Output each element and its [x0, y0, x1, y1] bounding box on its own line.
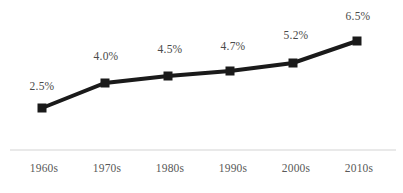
data-point-marker	[226, 67, 235, 76]
data-point-marker	[353, 37, 362, 46]
data-point-marker	[38, 104, 47, 113]
data-point-marker	[289, 59, 298, 68]
x-axis-tick-label: 1980s	[144, 162, 196, 174]
data-point-label: 2.5%	[20, 80, 64, 92]
data-point-label: 4.7%	[211, 40, 255, 52]
data-point-label: 4.0%	[84, 50, 128, 62]
data-point-label: 5.2%	[274, 29, 318, 41]
x-axis-tick-label: 1990s	[207, 162, 259, 174]
x-axis-tick-label: 2000s	[270, 162, 322, 174]
line-chart: 2.5%4.0%4.5%4.7%5.2%6.5% 1960s1970s1980s…	[0, 0, 403, 193]
data-point-label: 6.5%	[336, 10, 380, 22]
x-axis-tick-label: 1960s	[18, 162, 70, 174]
data-point-label: 4.5%	[148, 43, 192, 55]
x-axis-tick-label: 2010s	[333, 162, 385, 174]
data-point-marker	[101, 79, 110, 88]
x-axis-tick-label: 1970s	[81, 162, 133, 174]
data-point-marker	[164, 72, 173, 81]
